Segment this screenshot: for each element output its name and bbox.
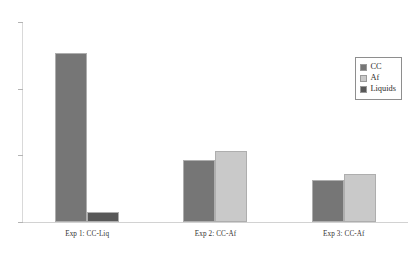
bar-cc (55, 53, 87, 222)
x-axis-label: Exp 3: CC-Af (280, 230, 408, 238)
bar-group (23, 22, 151, 222)
legend-item-liquids: Liquids (360, 84, 396, 95)
bar-af (215, 151, 247, 222)
legend-label-liquids: Liquids (370, 85, 396, 93)
bar-group (151, 22, 279, 222)
legend-label-af: Af (370, 74, 379, 82)
bar-cc (183, 160, 215, 222)
y-axis-tick (18, 222, 23, 223)
chart-legend: CC Af Liquids (355, 57, 402, 100)
bar-cc (312, 180, 344, 222)
legend-swatch-liquids (360, 86, 367, 93)
bar-liquids (87, 212, 119, 222)
legend-swatch-af (360, 75, 367, 82)
legend-label-cc: CC (370, 63, 381, 71)
x-axis-label: Exp 1: CC-Liq (23, 230, 151, 238)
legend-item-cc: CC (360, 62, 396, 73)
x-axis-label: Exp 2: CC-Af (151, 230, 279, 238)
legend-swatch-cc (360, 64, 367, 71)
bar-groups (23, 22, 408, 222)
bar-af (344, 174, 376, 222)
legend-item-af: Af (360, 73, 396, 84)
bar-group (280, 22, 408, 222)
bar-chart: Exp 1: CC-LiqExp 2: CC-AfExp 3: CC-Af CC… (0, 0, 420, 258)
x-axis-line (22, 222, 408, 223)
